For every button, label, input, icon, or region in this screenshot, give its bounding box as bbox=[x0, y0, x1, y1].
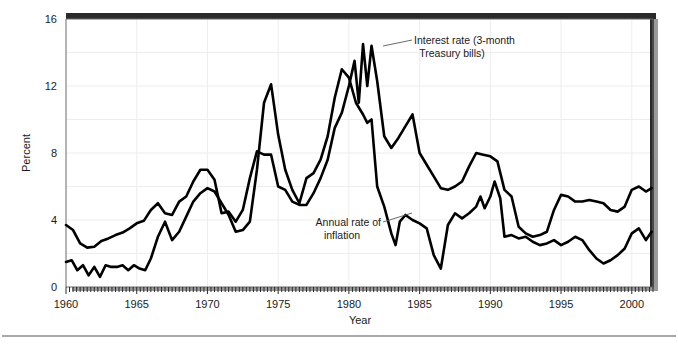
x-tick-label: 1990 bbox=[478, 298, 502, 310]
y-tick-label: 12 bbox=[45, 80, 57, 92]
x-tick-label: 1965 bbox=[124, 298, 148, 310]
x-tick-label: 1980 bbox=[337, 298, 361, 310]
y-axis-title: Percent bbox=[20, 134, 32, 172]
x-tick-label: 1975 bbox=[266, 298, 290, 310]
chart-figure: 0481216 Percent 196019651970197519801985… bbox=[0, 0, 678, 346]
x-tick-label: 1960 bbox=[54, 298, 78, 310]
figure-background bbox=[0, 0, 678, 346]
y-tick-label: 8 bbox=[51, 147, 57, 159]
x-tick-label: 1995 bbox=[549, 298, 573, 310]
plot-shadow-right-soft bbox=[654, 19, 658, 291]
plot-shadow-top bbox=[66, 13, 656, 19]
inflation-annotation-line2: inflation bbox=[324, 229, 360, 241]
y-tick-label: 4 bbox=[51, 214, 57, 226]
x-axis-title: Year bbox=[349, 314, 372, 326]
inflation-annotation-line1: Annual rate of bbox=[316, 216, 381, 228]
x-axis-tick-labels: 196019651970197519801985199019952000 bbox=[54, 298, 644, 310]
interest-rate-annotation-line1: Interest rate (3-month bbox=[414, 34, 515, 46]
y-tick-label: 16 bbox=[45, 13, 57, 25]
x-tick-label: 2000 bbox=[620, 298, 644, 310]
interest-rate-annotation-line2: Treasury bills) bbox=[419, 47, 485, 59]
x-tick-label: 1985 bbox=[407, 298, 431, 310]
x-tick-label: 1970 bbox=[195, 298, 219, 310]
y-tick-label: 0 bbox=[51, 281, 57, 293]
